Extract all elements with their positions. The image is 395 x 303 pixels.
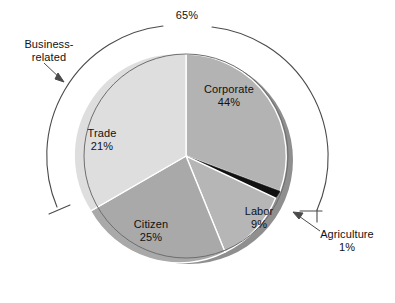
slice-label-citizen-name: Citizen — [108, 218, 194, 231]
slice-label-trade: Trade 21% — [66, 127, 138, 152]
slice-label-corporate: Corporate 44% — [186, 83, 272, 108]
slice-label-citizen: Citizen 25% — [108, 218, 194, 243]
annotation-label-business-related: Business- related — [12, 38, 86, 63]
slice-label-agriculture-value: 1% — [305, 241, 389, 254]
slice-label-corporate-value: 44% — [186, 96, 272, 109]
slice-label-labor-name: Labor — [224, 205, 294, 218]
business-related-leader-arrow — [44, 63, 64, 82]
annotation-label-business-related-line2: related — [12, 51, 86, 64]
slice-label-labor: Labor 9% — [224, 205, 294, 230]
annotation-label-business-related-line1: Business- — [12, 38, 86, 51]
slice-label-citizen-value: 25% — [108, 231, 194, 244]
slice-label-trade-value: 21% — [66, 140, 138, 153]
slice-label-agriculture-name: Agriculture — [305, 228, 389, 241]
slice-label-agriculture: Agriculture 1% — [305, 228, 389, 253]
slice-label-labor-value: 9% — [224, 218, 294, 231]
pie-chart-figure: Corporate 44% Trade 21% Citizen 25% Labo… — [0, 0, 395, 303]
slice-label-corporate-name: Corporate — [186, 83, 272, 96]
annotation-label-bracket-total: 65% — [166, 9, 208, 22]
slice-label-trade-name: Trade — [66, 127, 138, 140]
